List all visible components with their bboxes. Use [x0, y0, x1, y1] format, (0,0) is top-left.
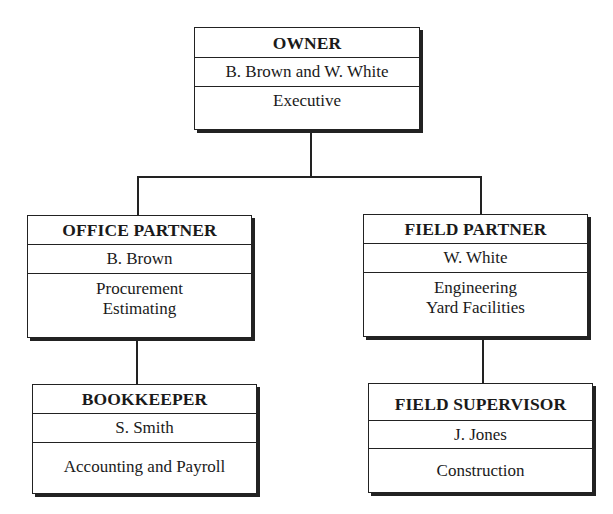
owner-title: OWNER: [195, 28, 419, 58]
bookkeeper-title: BOOKKEEPER: [33, 385, 256, 414]
field-supervisor-function-1: Construction: [437, 461, 525, 481]
bookkeeper-box: BOOKKEEPER S. Smith Accounting and Payro…: [32, 384, 257, 494]
connector-to-office-partner: [137, 176, 139, 215]
connector-office-partner-to-bookkeeper: [136, 339, 138, 384]
connector-owner-down: [310, 130, 312, 177]
field-supervisor-name: J. Jones: [369, 421, 592, 449]
connector-horizontal: [137, 176, 481, 178]
field-partner-title: FIELD PARTNER: [364, 215, 587, 244]
office-partner-title: OFFICE PARTNER: [28, 216, 251, 245]
owner-box: OWNER B. Brown and W. White Executive: [194, 27, 420, 130]
bookkeeper-functions: Accounting and Payroll: [33, 443, 256, 493]
field-partner-function-2: Yard Facilities: [426, 298, 525, 318]
field-partner-name: W. White: [364, 244, 587, 273]
connector-field-partner-to-supervisor: [482, 338, 484, 383]
owner-functions: Executive: [195, 87, 419, 129]
field-partner-functions: Engineering Yard Facilities: [364, 273, 587, 336]
field-partner-box: FIELD PARTNER W. White Engineering Yard …: [363, 214, 588, 337]
field-supervisor-box: FIELD SUPERVISOR J. Jones Construction: [368, 383, 593, 493]
office-partner-box: OFFICE PARTNER B. Brown Procurement Esti…: [27, 215, 252, 338]
field-supervisor-functions: Construction: [369, 449, 592, 492]
field-partner-function-1: Engineering: [434, 278, 517, 298]
office-partner-function-1: Procurement: [96, 279, 183, 299]
bookkeeper-function-1: Accounting and Payroll: [64, 457, 225, 477]
field-supervisor-title: FIELD SUPERVISOR: [369, 384, 592, 421]
office-partner-functions: Procurement Estimating: [28, 274, 251, 337]
office-partner-name: B. Brown: [28, 245, 251, 274]
bookkeeper-name: S. Smith: [33, 414, 256, 443]
connector-to-field-partner: [480, 176, 482, 214]
owner-name: B. Brown and W. White: [195, 58, 419, 87]
office-partner-function-2: Estimating: [103, 299, 177, 319]
owner-function-1: Executive: [273, 91, 341, 111]
